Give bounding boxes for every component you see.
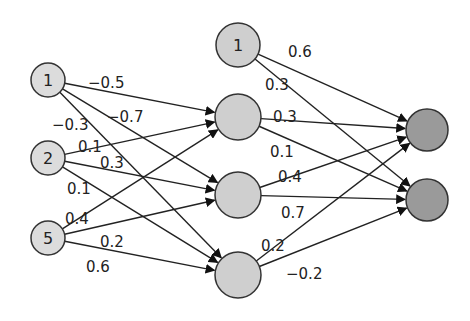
neural-network-diagram: −0.5−0.7−0.30.10.30.10.40.20.60.60.30.30… <box>0 0 470 321</box>
weight-label: 0.4 <box>278 168 302 186</box>
network-canvas: −0.5−0.7−0.30.10.30.10.40.20.60.60.30.30… <box>0 0 470 321</box>
weight-label: 0.7 <box>281 204 305 222</box>
weight-label: −0.5 <box>88 74 124 92</box>
nodes-layer: 1251 <box>31 23 448 298</box>
output-node <box>406 109 448 151</box>
weight-label: 0.4 <box>65 210 89 228</box>
weight-label: 0.6 <box>86 258 110 276</box>
edge-h2-o2 <box>261 196 405 200</box>
weight-label: 0.6 <box>288 43 312 61</box>
weight-label: 0.2 <box>100 233 124 251</box>
node-label: 1 <box>233 36 243 55</box>
node-label: 5 <box>43 229 53 248</box>
weight-label: −0.7 <box>107 108 143 126</box>
weight-label: 0.2 <box>261 237 285 255</box>
output-node <box>406 179 448 221</box>
hidden-node <box>215 94 261 140</box>
edge-i1-h2 <box>63 89 218 183</box>
node-label: 2 <box>43 149 53 168</box>
weight-label: 0.3 <box>265 76 289 94</box>
weight-label: −0.2 <box>286 265 322 283</box>
weight-label: 0.1 <box>67 180 91 198</box>
hidden-node <box>215 252 261 298</box>
weight-label: 0.1 <box>270 143 294 161</box>
weight-label: 0.1 <box>78 138 102 156</box>
weight-label: 0.3 <box>100 154 124 172</box>
weight-label: −0.3 <box>52 116 88 134</box>
hidden-node <box>215 172 261 218</box>
node-label: 1 <box>43 71 53 90</box>
weight-label: 0.3 <box>273 108 297 126</box>
